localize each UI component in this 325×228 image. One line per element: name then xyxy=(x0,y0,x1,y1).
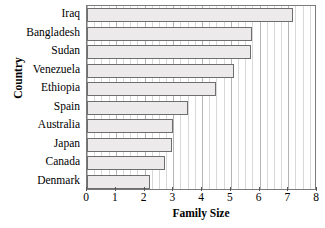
x-tick-label-5: 5 xyxy=(221,191,239,203)
category-label-venezuela: Venezuela xyxy=(0,63,80,75)
gridline xyxy=(310,6,311,189)
gridline xyxy=(303,6,304,189)
x-tick-label-4: 4 xyxy=(192,191,210,203)
bar xyxy=(87,119,173,133)
bar xyxy=(87,101,188,115)
x-tick-label-6: 6 xyxy=(250,191,268,203)
category-label-sudan: Sudan xyxy=(0,44,80,56)
category-label-ethiopia: Ethiopia xyxy=(0,81,80,93)
category-label-iraq: Iraq xyxy=(0,7,80,19)
gridline xyxy=(295,6,296,189)
x-tick-label-0: 0 xyxy=(77,191,95,203)
plot-area xyxy=(86,5,316,190)
gridline xyxy=(260,6,261,189)
bar xyxy=(87,156,165,170)
bar xyxy=(87,64,234,78)
bar xyxy=(87,82,216,96)
x-tick-label-3: 3 xyxy=(163,191,181,203)
x-tick-label-1: 1 xyxy=(106,191,124,203)
gridline xyxy=(281,6,282,189)
x-tick-label-2: 2 xyxy=(135,191,153,203)
category-label-bangladesh: Bangladesh xyxy=(0,26,80,38)
gridline xyxy=(252,6,253,189)
bar xyxy=(87,138,172,152)
category-label-japan: Japan xyxy=(0,137,80,149)
bar xyxy=(87,27,252,41)
x-axis-tick-labels: 012345678 xyxy=(0,191,325,207)
x-axis-title: Family Size xyxy=(86,207,316,219)
bar xyxy=(87,45,251,59)
gridline xyxy=(274,6,275,189)
bar xyxy=(87,175,150,189)
category-label-spain: Spain xyxy=(0,100,80,112)
gridline xyxy=(267,6,268,189)
bar xyxy=(87,8,293,22)
x-tick-label-7: 7 xyxy=(278,191,296,203)
category-axis-labels: IraqBangladeshSudanVenezuelaEthiopiaSpai… xyxy=(0,5,83,190)
category-label-australia: Australia xyxy=(0,118,80,130)
category-label-canada: Canada xyxy=(0,155,80,167)
bar-chart: Country IraqBangladeshSudanVenezuelaEthi… xyxy=(0,0,325,228)
category-label-denmark: Denmark xyxy=(0,174,80,186)
gridline xyxy=(288,6,289,189)
x-tick-label-8: 8 xyxy=(307,191,325,203)
